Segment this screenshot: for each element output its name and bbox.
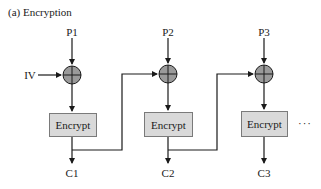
diagram-connectors	[0, 0, 321, 189]
ciphertext-label-c1: C1	[66, 167, 79, 179]
encrypt-block-3: Encrypt	[241, 111, 288, 137]
xor-icon	[255, 65, 273, 83]
encrypt-block-1: Encrypt	[49, 113, 97, 137]
xor-icon	[159, 65, 177, 83]
plaintext-label-p3: P3	[258, 26, 270, 38]
ciphertext-label-c2: C2	[162, 167, 175, 179]
iv-label: IV	[24, 69, 36, 81]
plaintext-label-p2: P2	[162, 26, 174, 38]
continuation-ellipsis: ···	[298, 117, 312, 129]
encrypt-block-2: Encrypt	[144, 112, 193, 137]
xor-icon	[63, 66, 81, 84]
cbc-encryption-diagram: (a) Encryption	[0, 0, 321, 189]
ciphertext-label-c3: C3	[258, 167, 271, 179]
plaintext-label-p1: P1	[66, 26, 78, 38]
